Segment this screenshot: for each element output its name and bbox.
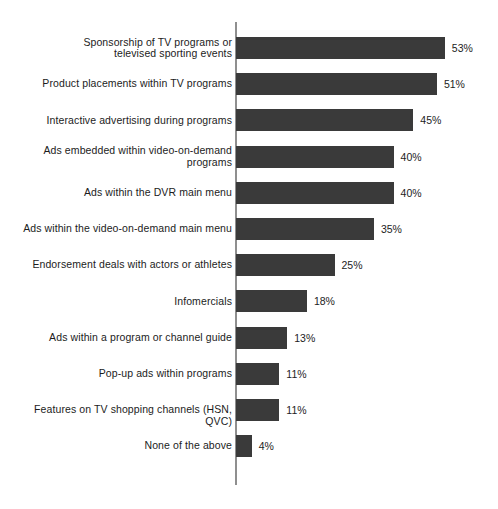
- bar-value-label: 35%: [381, 222, 402, 236]
- bar-value-label: 53%: [452, 41, 473, 55]
- category-label: Ads within a program or channel guide: [12, 332, 232, 344]
- bar-row: Pop-up ads within programs11%: [0, 363, 498, 385]
- category-label: Ads within the video-on-demand main menu: [12, 223, 232, 235]
- bar-value-label: 13%: [294, 331, 315, 345]
- bar-chart: Sponsorship of TV programs or televised …: [0, 0, 498, 509]
- bar-value-label: 25%: [342, 258, 363, 272]
- bar-value-label: 4%: [259, 439, 274, 453]
- bar: [236, 290, 307, 312]
- bar-row: Product placements within TV programs51%: [0, 73, 498, 95]
- bar: [236, 363, 279, 385]
- bar: [236, 399, 279, 421]
- bar: [236, 73, 437, 95]
- bar-value-label: 11%: [286, 367, 306, 381]
- bar: [236, 109, 413, 131]
- bar-row: Endorsement deals with actors or athlete…: [0, 254, 498, 276]
- category-label: Ads embedded within video-on-demand prog…: [12, 145, 232, 168]
- bar-row: Ads embedded within video-on-demand prog…: [0, 146, 498, 168]
- bar-value-label: 18%: [314, 294, 335, 308]
- bar: [236, 37, 445, 59]
- category-label: Interactive advertising during programs: [12, 115, 232, 127]
- category-label: Features on TV shopping channels (HSN, Q…: [12, 404, 232, 427]
- bar-row: Interactive advertising during programs4…: [0, 109, 498, 131]
- bar-row: Sponsorship of TV programs or televised …: [0, 37, 498, 59]
- category-label: Product placements within TV programs: [12, 78, 232, 90]
- plot-area: Sponsorship of TV programs or televised …: [0, 0, 498, 509]
- category-label: None of the above: [12, 440, 232, 452]
- bar-row: None of the above4%: [0, 435, 498, 457]
- bar-value-label: 40%: [401, 150, 422, 164]
- category-label: Ads within the DVR main menu: [12, 187, 232, 199]
- category-label: Sponsorship of TV programs or televised …: [12, 37, 232, 60]
- bar: [236, 146, 394, 168]
- bar-row: Infomercials18%: [0, 290, 498, 312]
- category-label: Endorsement deals with actors or athlete…: [12, 259, 232, 271]
- bar-row: Ads within the video-on-demand main menu…: [0, 218, 498, 240]
- bar: [236, 218, 374, 240]
- bar-row: Features on TV shopping channels (HSN, Q…: [0, 399, 498, 421]
- bar-value-label: 11%: [286, 403, 306, 417]
- bar: [236, 435, 252, 457]
- bar: [236, 182, 394, 204]
- bar-value-label: 40%: [401, 186, 422, 200]
- category-label: Infomercials: [12, 296, 232, 308]
- bar-row: Ads within a program or channel guide13%: [0, 327, 498, 349]
- bar-value-label: 45%: [420, 113, 441, 127]
- bar: [236, 254, 335, 276]
- bar: [236, 327, 287, 349]
- bar-value-label: 51%: [444, 77, 465, 91]
- category-label: Pop-up ads within programs: [12, 368, 232, 380]
- bar-row: Ads within the DVR main menu40%: [0, 182, 498, 204]
